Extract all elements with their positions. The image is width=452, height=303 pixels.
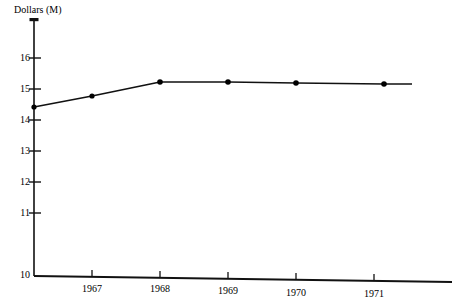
data-point-marker[interactable] xyxy=(89,93,94,98)
data-point-marker[interactable] xyxy=(31,104,36,109)
plot-area xyxy=(0,0,452,303)
data-point-marker[interactable] xyxy=(157,79,163,85)
x-axis-line xyxy=(34,276,452,282)
data-point-marker[interactable] xyxy=(293,80,299,86)
data-point-marker[interactable] xyxy=(381,81,387,87)
data-point-marker[interactable] xyxy=(225,79,231,85)
chart-page: Dollars (M) 16 15 14 13 12 11 10 1967 19… xyxy=(0,0,452,303)
y-axis-arrow-cap xyxy=(30,18,39,21)
